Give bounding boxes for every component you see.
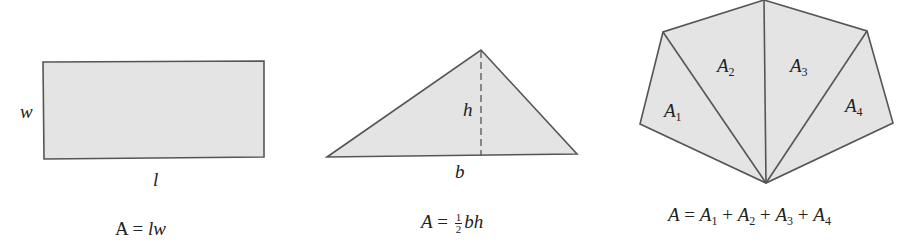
one-half-fraction: 1 2 xyxy=(455,212,463,235)
region-label-a4: A4 xyxy=(845,96,863,118)
rect-formula: A = lw xyxy=(115,219,166,238)
triangle-formula: A = 1 2 bh xyxy=(421,212,483,235)
triangle-base-label: b xyxy=(455,162,465,181)
triangle-height-label: h xyxy=(463,100,473,119)
region-label-a3: A3 xyxy=(790,56,808,78)
polygon-formula: A = A1 + A2 + A3 + A4 xyxy=(668,205,831,227)
triangle-shape xyxy=(327,50,577,157)
region-label-a2: A2 xyxy=(717,56,735,78)
rectangle-shape xyxy=(43,61,264,159)
rect-width-label: w xyxy=(20,102,33,121)
region-label-a1: A1 xyxy=(664,101,682,123)
rect-length-label: l xyxy=(153,170,158,189)
